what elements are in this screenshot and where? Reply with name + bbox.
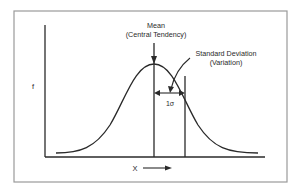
- mean-sublabel: (Central Tendency): [126, 30, 187, 39]
- arrow-right-icon: [165, 166, 172, 171]
- arrow-left-icon: [154, 90, 160, 96]
- normal-distribution-diagram: Mean (Central Tendency) Standard Deviati…: [0, 0, 293, 194]
- sigma-label: 1σ: [166, 100, 175, 107]
- mean-arrow-icon: [151, 56, 157, 64]
- sd-pointer-line: [171, 58, 190, 89]
- sd-label: Standard Deviation: [195, 49, 256, 58]
- mean-label: Mean: [147, 21, 165, 30]
- x-axis-label: X: [132, 164, 137, 173]
- y-axis-label: f: [32, 82, 35, 91]
- sd-sublabel: (Variation): [210, 58, 243, 67]
- sd-pointer-arrow-icon: [168, 86, 174, 93]
- bell-curve: [56, 64, 258, 153]
